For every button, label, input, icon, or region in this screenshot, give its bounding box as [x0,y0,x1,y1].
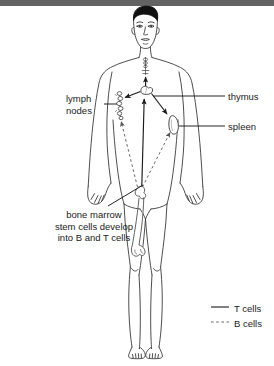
diagram-page: lymphnodes thymus spleen bone marrowstem… [0,0,274,366]
label-bone-marrow-line1: bone marrow [66,209,121,220]
spleen-organ [169,116,179,134]
label-bone-marrow: bone marrowstem cells developinto B and … [39,209,149,244]
label-lymph-nodes: lymphnodes [66,93,92,116]
label-thymus: thymus [228,91,259,103]
label-bone-marrow-line3: into B and T cells [58,232,131,243]
legend-sample-lines [211,307,229,322]
legend-b-cells-label: B cells [234,318,262,329]
human-body-diagram [0,0,274,366]
b-cell-pathways [121,122,170,188]
face-features [137,22,154,44]
label-lymph-nodes-line2: nodes [66,105,92,116]
lymph-node-chain [115,92,123,120]
thymus-organ [141,86,153,94]
label-lymph-nodes-line1: lymph [66,93,91,104]
label-spleen: spleen [228,121,256,133]
label-bone-marrow-line2: stem cells develop [55,221,133,232]
legend-t-cells-label: T cells [234,303,261,314]
label-leader-lines [104,96,225,206]
neck-lymph-chain [142,57,149,75]
